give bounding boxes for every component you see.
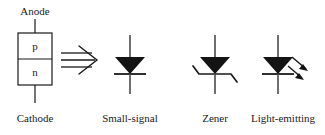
diode-symbol-small-signal [114, 35, 146, 94]
diode-symbol-led [262, 35, 308, 94]
cathode-label: Cathode [17, 113, 54, 124]
caption-zener: Zener [202, 113, 228, 124]
p-region-label: p [32, 41, 38, 52]
pn-junction-diagram [18, 19, 52, 103]
anode-label: Anode [20, 6, 49, 17]
triple-line-rightwards-arrow-icon [61, 46, 97, 74]
diode-triangle [115, 57, 145, 74]
caption-small-signal: Small-signal [102, 113, 158, 124]
n-region-label: n [32, 67, 38, 78]
diode-symbols-figure: Anode p n Cathode Small-signal Zener Lig… [0, 0, 325, 135]
emission-arrows-icon [288, 57, 308, 80]
diode-symbol-zener [193, 35, 237, 94]
diode-triangle [200, 57, 230, 74]
caption-light-emitting: Light-emitting [251, 113, 315, 124]
